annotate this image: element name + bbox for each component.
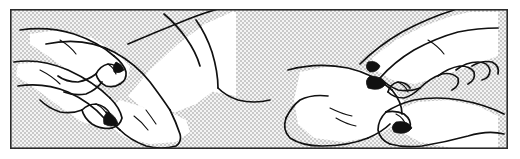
illustration-root xyxy=(0,0,520,159)
illustration-canvas xyxy=(0,0,520,159)
